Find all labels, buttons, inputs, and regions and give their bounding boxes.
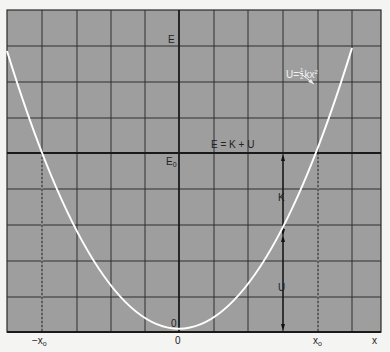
e0-label: E0 [166, 157, 177, 168]
curve-label-exp: 2 [314, 69, 317, 75]
plot-background [7, 10, 381, 332]
e0-text: E [166, 156, 173, 167]
curve-label: U=12kx2 [286, 67, 318, 80]
origin-inner-label: 0 [171, 319, 177, 329]
total-energy-label: E = K + U [211, 140, 254, 150]
potential-label: U [278, 283, 285, 293]
curve-label-u: U= [286, 69, 299, 80]
curve-label-frac: 12 [300, 67, 303, 80]
curve-label-kx: kx [304, 69, 314, 80]
x-origin-label: 0 [175, 336, 181, 346]
pos-x0-label: xo [313, 336, 322, 347]
x-axis-label: x [372, 336, 377, 346]
y-axis-label: E [168, 35, 175, 45]
energy-diagram [0, 0, 390, 352]
kinetic-label: K [278, 193, 285, 203]
e0-sub: 0 [173, 161, 177, 168]
neg-x0-label: −xo [32, 336, 47, 347]
